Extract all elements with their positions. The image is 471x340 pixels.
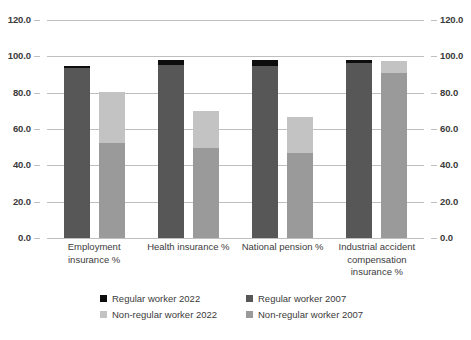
y-axis-left-tick-mark (34, 56, 40, 57)
x-axis-label-line: National pension % (236, 241, 330, 254)
x-axis-label-line: compensation (330, 254, 424, 267)
bar-chart: 0.020.040.060.080.0100.0120.0 0.020.040.… (0, 0, 471, 340)
bar-group (236, 20, 330, 238)
y-axis-left-tick-label: 60.0 (13, 124, 31, 134)
bar-regular-worker[interactable] (252, 60, 278, 238)
bar-non-regular-worker[interactable] (287, 117, 313, 238)
bar-segment-regular-worker-2007[interactable] (346, 63, 372, 238)
legend-swatch-icon (100, 311, 107, 318)
y-axis-left-tick-mark (34, 202, 40, 203)
bar-segment-non-regular-worker-2007[interactable] (381, 73, 407, 238)
y-axis-left-tick-mark (34, 129, 40, 130)
x-axis-label-line: Industrial accident (330, 241, 424, 254)
bar-segment-non-regular-worker-2007[interactable] (99, 143, 125, 238)
bar-regular-worker[interactable] (346, 60, 372, 238)
y-axis-left-tick-label: 0.0 (18, 233, 31, 243)
x-axis-label-1: Employmentinsurance % (47, 241, 141, 266)
bar-segment-non-regular-worker-2022[interactable] (193, 111, 219, 148)
y-axis-right-tick-label: 100.0 (440, 51, 463, 61)
y-axis-left-tick-mark (34, 165, 40, 166)
y-axis-left-tick-mark (34, 93, 40, 94)
legend-label: Regular worker 2007 (258, 294, 346, 304)
legend-swatch-icon (100, 295, 107, 302)
bar-non-regular-worker[interactable] (99, 92, 125, 238)
y-axis-left-tick-label: 80.0 (13, 88, 31, 98)
chart-legend: Regular worker 2022Regular worker 2007No… (100, 294, 390, 326)
bar-non-regular-worker[interactable] (381, 61, 407, 238)
bar-group (330, 20, 424, 238)
y-axis-right-tick-mark (431, 56, 437, 57)
y-axis-left-tick-label: 120.0 (8, 15, 31, 25)
y-axis-right: 0.020.040.060.080.0100.0120.0 (431, 20, 471, 238)
y-axis-right-tick-mark (431, 93, 437, 94)
bar-segment-non-regular-worker-2022[interactable] (99, 92, 125, 143)
bar-segment-non-regular-worker-2022[interactable] (287, 117, 313, 153)
x-axis-label-line: insurance % (47, 254, 141, 267)
legend-item[interactable]: Regular worker 2022 (100, 294, 200, 304)
bar-group (141, 20, 235, 238)
y-axis-right-tick-mark (431, 238, 437, 239)
y-axis-right-tick-label: 0.0 (440, 233, 453, 243)
y-axis-left-tick-label: 40.0 (13, 160, 31, 170)
x-axis-category-labels: Employmentinsurance %Health insurance %N… (47, 241, 424, 297)
legend-swatch-icon (246, 295, 253, 302)
bar-segment-non-regular-worker-2007[interactable] (287, 153, 313, 238)
y-axis-right-tick-mark (431, 165, 437, 166)
bar-non-regular-worker[interactable] (193, 111, 219, 238)
x-axis-label-line: Health insurance % (141, 241, 235, 254)
x-axis-label-line: Employment (47, 241, 141, 254)
y-axis-right-tick-mark (431, 20, 437, 21)
y-axis-right-tick-mark (431, 129, 437, 130)
legend-label: Non-regular worker 2022 (112, 310, 217, 320)
y-axis-left-tick-mark (34, 20, 40, 21)
y-axis-right-tick-mark (431, 202, 437, 203)
y-axis-left-tick-label: 100.0 (8, 51, 31, 61)
y-axis-right-tick-label: 60.0 (440, 124, 458, 134)
bar-group (47, 20, 141, 238)
bar-segment-non-regular-worker-2022[interactable] (381, 61, 407, 74)
bar-regular-worker[interactable] (64, 66, 90, 238)
y-axis-left-tick-label: 20.0 (13, 197, 31, 207)
y-axis-right-tick-label: 120.0 (440, 15, 463, 25)
bar-segment-regular-worker-2007[interactable] (158, 65, 184, 238)
gridline-0-0 (47, 238, 424, 239)
x-axis-label-4: Industrial accidentcompensationinsurance… (330, 241, 424, 279)
legend-item[interactable]: Non-regular worker 2007 (246, 310, 363, 320)
legend-label: Non-regular worker 2007 (258, 310, 363, 320)
plot-area (47, 20, 424, 238)
legend-swatch-icon (246, 311, 253, 318)
bar-segment-regular-worker-2007[interactable] (64, 68, 90, 238)
legend-item[interactable]: Non-regular worker 2022 (100, 310, 217, 320)
bar-segment-regular-worker-2007[interactable] (252, 66, 278, 238)
y-axis-left-tick-mark (34, 238, 40, 239)
x-axis-label-3: National pension % (236, 241, 330, 254)
y-axis-left: 0.020.040.060.080.0100.0120.0 (0, 20, 40, 238)
x-axis-label-line: insurance % (330, 266, 424, 279)
legend-label: Regular worker 2022 (112, 294, 200, 304)
y-axis-right-tick-label: 80.0 (440, 88, 458, 98)
bar-regular-worker[interactable] (158, 60, 184, 238)
y-axis-right-tick-label: 20.0 (440, 197, 458, 207)
legend-item[interactable]: Regular worker 2007 (246, 294, 346, 304)
bar-segment-non-regular-worker-2007[interactable] (193, 148, 219, 238)
y-axis-right-tick-label: 40.0 (440, 160, 458, 170)
x-axis-label-2: Health insurance % (141, 241, 235, 254)
